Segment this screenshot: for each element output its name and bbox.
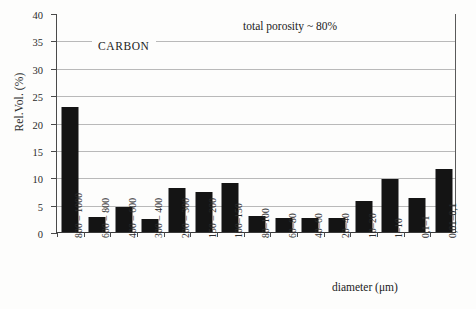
y-tick-label: 10 bbox=[33, 174, 44, 185]
y-tick-label: 5 bbox=[38, 201, 43, 212]
x-tick-label: 0,1–1 bbox=[420, 174, 431, 238]
x-tick-label: 80–100 bbox=[260, 174, 271, 238]
annotation-material-carbon: CARBON bbox=[92, 40, 156, 52]
x-axis-title: diameter (μm) bbox=[332, 281, 398, 293]
x-tick-label: 600 – 800 bbox=[100, 174, 111, 238]
y-tick-label: 35 bbox=[33, 37, 44, 48]
y-tick-label: 25 bbox=[33, 92, 44, 103]
chart-figure: Rel.Vol. (%) 0510152025303540 800 – 1000… bbox=[0, 0, 476, 309]
y-tick-label: 20 bbox=[33, 119, 44, 130]
x-tick-label: 100–150 bbox=[233, 174, 244, 238]
x-tick-label: 1–10 bbox=[393, 174, 404, 238]
y-tick-label: 15 bbox=[33, 146, 44, 157]
y-axis-title: Rel.Vol. (%) bbox=[13, 47, 25, 157]
x-tick-label: 0,01–0,1 bbox=[447, 174, 458, 238]
x-tick-label: 10–20 bbox=[367, 174, 378, 238]
x-tick-label: 200 – 300 bbox=[180, 174, 191, 238]
x-tick-label: 300 – 400 bbox=[153, 174, 164, 238]
y-tick-label: 0 bbox=[38, 229, 43, 240]
y-tick-label: 40 bbox=[33, 10, 44, 21]
annotation-total-porosity: total porosity ~ 80% bbox=[243, 20, 337, 32]
x-tick-label: 20–40 bbox=[340, 174, 351, 238]
y-tick-label: 30 bbox=[33, 64, 44, 75]
x-tick-label: 60–80 bbox=[287, 174, 298, 238]
x-tick-label: 40–60 bbox=[313, 174, 324, 238]
x-tick-label: 400 – 600 bbox=[127, 174, 138, 238]
x-tick-label: 800 – 1000 bbox=[73, 174, 84, 238]
x-tick bbox=[57, 232, 58, 237]
x-tick-label: 150 – 200 bbox=[207, 174, 218, 238]
